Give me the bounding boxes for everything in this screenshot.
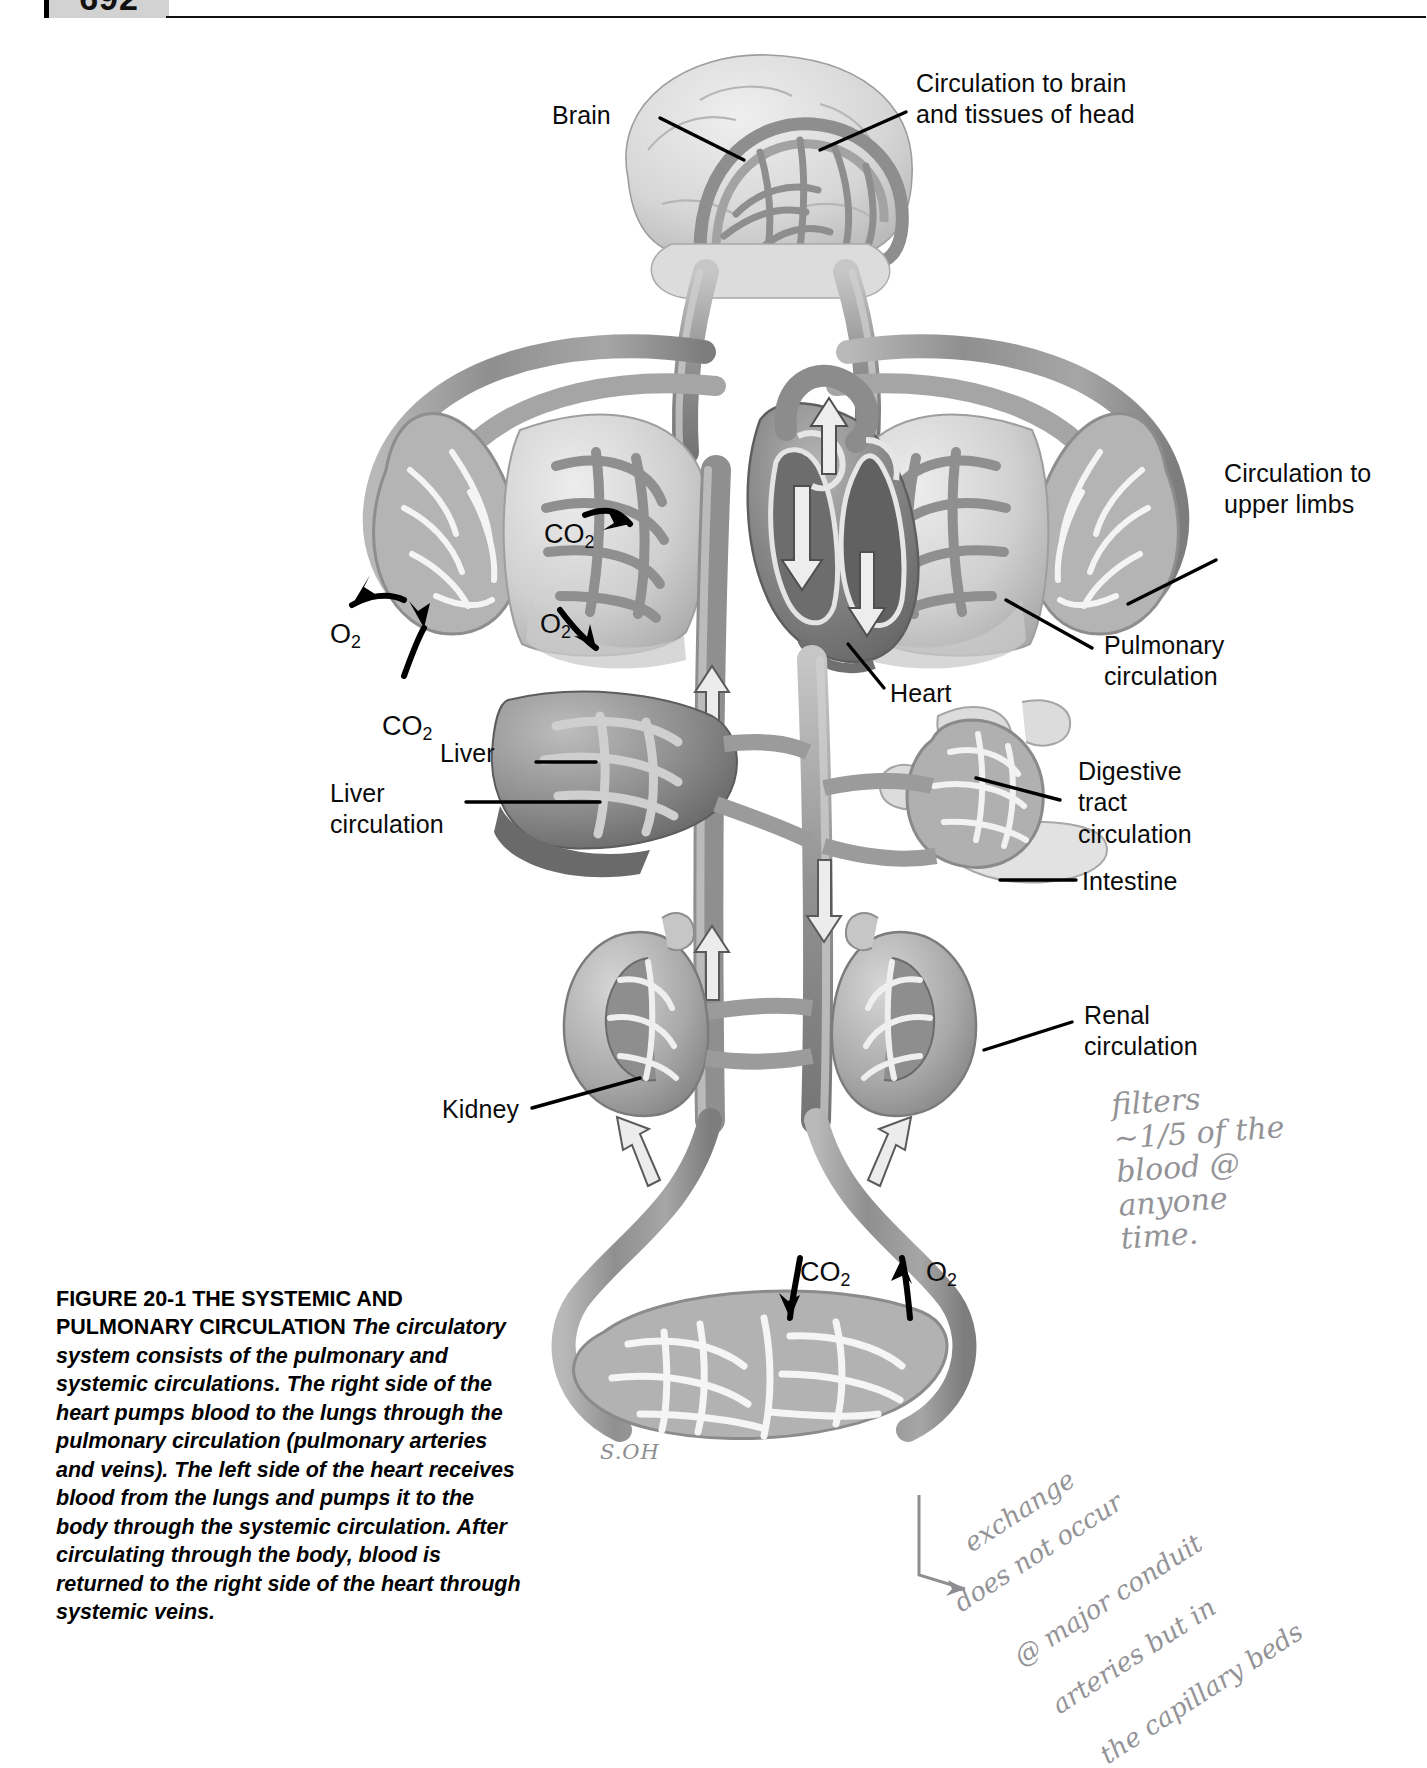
label-co2-left-lung: CO2 — [514, 488, 594, 584]
page-number: 692 — [79, 0, 139, 18]
intestine-organ — [824, 700, 1107, 882]
label-circulation-upper-limbs: Circulation to upper limbs — [1224, 458, 1371, 521]
label-heart: Heart — [890, 678, 952, 709]
brain-organ — [626, 55, 912, 298]
label-o2-left-lung: O2 — [510, 578, 571, 674]
cephalic-vessels — [679, 272, 874, 452]
label-liver: Liver — [440, 738, 495, 769]
gas-arrowheads — [352, 511, 912, 1318]
label-co2-bottom: CO2 — [770, 1226, 850, 1322]
handwritten-exchange-note: exchange does not occur @ major conduit … — [905, 1345, 1335, 1645]
label-pulmonary-circulation: Pulmonary circulation — [1104, 630, 1224, 693]
right-lung — [844, 415, 1048, 669]
label-co2-left-limb: CO2 — [352, 680, 432, 776]
label-renal-circulation: Renal circulation — [1084, 1000, 1198, 1063]
heart-organ — [748, 376, 919, 668]
label-intestine: Intestine — [1082, 866, 1177, 897]
left-kidney — [564, 913, 812, 1116]
artist-signature: S.OH — [600, 1440, 660, 1464]
label-o2-left-limb: O2 — [300, 588, 361, 684]
upper-limb-vessels — [374, 346, 1179, 634]
label-brain: Brain — [552, 100, 611, 131]
liver-organ — [492, 692, 812, 877]
label-digestive-tract-circulation: Digestive tract circulation — [1078, 756, 1192, 850]
label-o2-bottom: O2 — [896, 1226, 957, 1322]
central-trunks — [695, 470, 841, 1120]
label-liver-circulation: Liver circulation — [330, 778, 444, 841]
handwritten-renal-note: filters ~1/5 of the blood @ anyone time. — [1110, 1076, 1292, 1255]
right-kidney — [832, 913, 976, 1116]
caption-body: The circulatory system consists of the p… — [56, 1315, 521, 1624]
page-number-tab: 692 — [44, 0, 169, 18]
leader-lines — [466, 112, 1216, 1108]
header-rule — [166, 16, 1426, 18]
label-circulation-brain-head: Circulation to brain and tissues of head — [916, 68, 1135, 131]
label-kidney: Kidney — [442, 1094, 519, 1125]
gas-arrows — [352, 511, 910, 1318]
figure-caption: FIGURE 20-1 THE SYSTEMIC AND PULMONARY C… — [56, 1285, 524, 1627]
